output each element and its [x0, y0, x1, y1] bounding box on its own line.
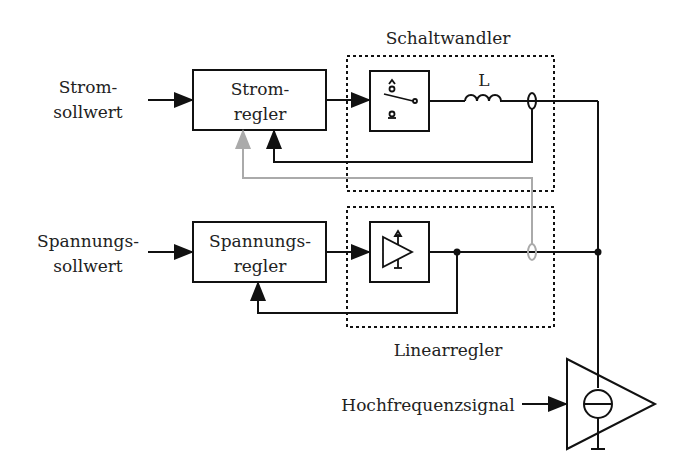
linear-amp-block — [370, 222, 429, 282]
spannungsregler-label-1: Spannungs- — [209, 231, 311, 251]
junction-dot-right — [595, 249, 602, 256]
inductor-label: L — [478, 70, 489, 90]
switch-block — [370, 71, 429, 131]
linearregler-title: Linearregler — [394, 340, 504, 360]
strom-sollwert-label-2: sollwert — [53, 102, 123, 122]
spannung-sollwert-label-2: sollwert — [53, 256, 123, 276]
block-diagram: Schaltwandler Linearregler Strom- sollwe… — [0, 0, 694, 474]
inductor-icon — [465, 95, 510, 101]
spannungsregler-label-2: regler — [234, 256, 288, 276]
stromregler-label-2: regler — [234, 104, 288, 124]
stromregler-label-1: Strom- — [231, 79, 290, 99]
strom-sollwert-label-1: Strom- — [59, 77, 118, 97]
hf-signal-label: Hochfrequenzsignal — [341, 395, 514, 415]
spannung-sollwert-label-1: Spannungs- — [37, 231, 139, 251]
schaltwandler-title: Schaltwandler — [386, 28, 512, 48]
